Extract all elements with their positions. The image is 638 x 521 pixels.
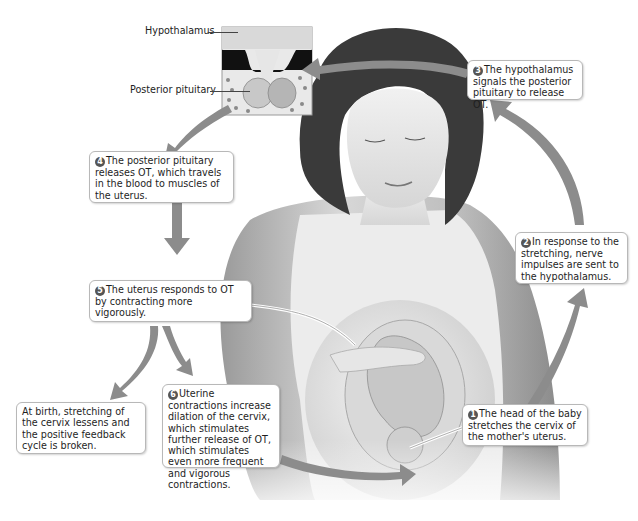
exit-note-box: At birth, stretching of the cervix lesse…	[16, 402, 146, 454]
step-5-box: 5The uterus responds to OT by contractin…	[89, 280, 252, 322]
step-number-badge: 1	[468, 410, 478, 420]
step-number-badge: 4	[95, 157, 105, 167]
oxytocin-feedback-diagram: Hypothalamus Posterior pituitary 3The hy…	[0, 0, 638, 521]
step-number-badge: 6	[168, 390, 178, 400]
step-2-box: 2In response to the stretching, nerve im…	[515, 232, 628, 284]
step-3-box: 3The hypothalamus signals the posterior …	[467, 60, 583, 100]
step-4-text: The posterior pituitary releases OT, whi…	[95, 155, 221, 201]
hypothalamus-leader-line	[208, 32, 238, 33]
step-1-text: The head of the baby stretches the cervi…	[468, 408, 582, 442]
step-5-text: The uterus responds to OT by contracting…	[95, 284, 234, 318]
pituitary-inset-image	[222, 27, 312, 115]
step-1-box: 1The head of the baby stretches the cerv…	[462, 404, 588, 446]
step-number-badge: 5	[95, 286, 105, 296]
step-number-badge: 3	[473, 66, 483, 76]
arrow-step2-to-step3	[490, 100, 584, 225]
arrow-step5-to-step6	[162, 326, 193, 376]
step-number-badge: 2	[521, 238, 531, 248]
arrow-step5-to-exit	[110, 326, 158, 400]
posterior-pituitary-label: Posterior pituitary	[130, 84, 216, 95]
exit-note-text: At birth, stretching of the cervix lesse…	[22, 406, 130, 451]
posterior-pituitary-leader-line	[210, 91, 250, 92]
step-2-text: In response to the stretching, nerve imp…	[521, 236, 619, 282]
step-4-box: 4The posterior pituitary releases OT, wh…	[89, 151, 234, 203]
hypothalamus-label: Hypothalamus	[145, 25, 215, 36]
step-6-box: 6Uterine contractions increase dilation …	[162, 384, 280, 468]
